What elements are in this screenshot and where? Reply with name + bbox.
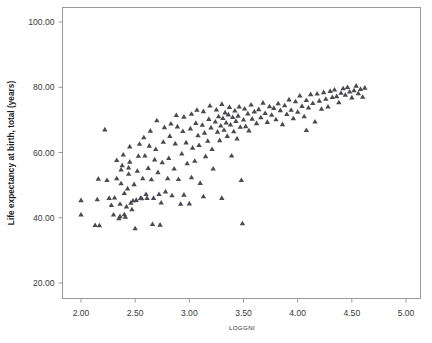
data-point-marker: [192, 158, 197, 163]
data-point-marker: [126, 171, 131, 176]
data-point-marker: [149, 177, 154, 182]
data-point-marker: [195, 133, 200, 138]
data-point-marker: [327, 88, 332, 93]
data-point-marker: [242, 106, 247, 111]
data-point-marker: [201, 109, 206, 114]
data-point-marker: [102, 127, 107, 132]
data-point-marker: [269, 112, 274, 117]
data-point-marker: [162, 125, 167, 130]
data-point-marker: [132, 226, 137, 231]
data-point-marker: [95, 197, 100, 202]
data-point-marker: [141, 135, 146, 140]
data-point-marker: [231, 129, 236, 134]
data-point-marker: [278, 108, 283, 113]
y-axis-title: Life expectancy at birth, total (years): [6, 81, 16, 226]
data-point-marker: [219, 101, 224, 106]
data-point-marker: [205, 138, 210, 143]
data-point-marker: [142, 153, 147, 158]
data-point-marker: [353, 83, 358, 88]
data-point-marker: [248, 102, 253, 107]
data-point-marker: [347, 89, 352, 94]
data-point-marker: [297, 93, 302, 98]
data-point-marker: [236, 104, 241, 109]
y-axis-ticks: 20.0040.0060.0080.00100.00: [28, 17, 62, 288]
data-point-marker: [243, 124, 248, 129]
data-point-marker: [291, 116, 296, 121]
data-point-marker: [256, 107, 261, 112]
data-point-marker: [245, 111, 250, 116]
data-point-marker: [293, 99, 298, 104]
data-point-marker: [201, 194, 206, 199]
x-axis-title: LOGGNI: [229, 324, 255, 331]
x-tick-label: 4.00: [289, 308, 306, 318]
data-point-marker: [330, 95, 335, 100]
data-point-marker: [217, 138, 222, 143]
data-point-marker: [308, 92, 313, 97]
data-point-marker: [222, 110, 227, 115]
data-point-marker: [208, 125, 213, 130]
data-point-marker: [301, 114, 306, 119]
data-point-marker: [202, 130, 207, 135]
y-tick-label: 40.00: [33, 213, 55, 223]
data-point-marker: [135, 168, 140, 173]
data-point-marker: [167, 133, 172, 138]
data-point-marker: [180, 128, 185, 133]
data-point-marker: [288, 107, 293, 112]
data-point-marker: [183, 140, 188, 145]
data-point-marker: [319, 106, 324, 111]
data-point-marker: [340, 86, 345, 91]
data-point-marker: [111, 212, 116, 217]
data-point-marker: [173, 141, 178, 146]
data-point-marker: [299, 103, 304, 108]
data-point-marker: [165, 176, 170, 181]
data-point-marker: [325, 104, 330, 109]
data-point-marker: [306, 105, 311, 110]
data-point-marker: [174, 112, 179, 117]
x-tick-label: 3.00: [181, 308, 198, 318]
data-point-marker: [280, 122, 285, 127]
data-point-marker: [235, 113, 240, 118]
data-point-marker: [117, 201, 122, 206]
data-point-marker: [262, 110, 267, 115]
data-point-marker: [147, 143, 152, 148]
data-point-marker: [156, 191, 161, 196]
y-tick-label: 20.00: [33, 278, 55, 288]
data-point-marker: [175, 124, 180, 129]
data-point-marker: [358, 86, 363, 91]
data-point-marker: [104, 177, 109, 182]
data-point-marker: [203, 154, 208, 159]
data-point-marker: [127, 159, 132, 164]
data-point-marker: [194, 107, 199, 112]
data-point-marker: [184, 161, 189, 166]
plot-frame: [63, 8, 421, 299]
y-tick-label: 60.00: [33, 148, 55, 158]
data-point-marker: [179, 151, 184, 156]
data-point-marker: [189, 175, 194, 180]
data-point-marker: [233, 118, 238, 123]
data-point-marker: [136, 153, 141, 158]
y-tick-label: 80.00: [33, 82, 55, 92]
data-point-marker: [122, 212, 127, 217]
data-point-marker: [148, 128, 153, 133]
data-point-marker: [169, 193, 174, 198]
data-point-marker: [221, 127, 226, 132]
x-tick-label: 3.50: [235, 308, 252, 318]
data-point-marker: [216, 114, 221, 119]
data-point-marker: [362, 85, 367, 90]
data-point-marker: [258, 115, 263, 120]
data-point-marker: [127, 144, 132, 149]
data-point-marker: [214, 107, 219, 112]
x-tick-label: 5.00: [398, 308, 415, 318]
data-point-marker: [336, 100, 341, 105]
data-point-marker: [200, 122, 205, 127]
data-point-marker: [119, 163, 124, 168]
data-point-marker: [284, 111, 289, 116]
data-point-marker: [282, 103, 287, 108]
data-point-marker: [189, 111, 194, 116]
data-point-marker: [190, 145, 195, 150]
data-point-marker: [267, 104, 272, 109]
data-point-marker: [181, 192, 186, 197]
data-point-marker: [106, 195, 111, 200]
data-point-marker: [234, 136, 239, 141]
data-point-marker: [215, 129, 220, 134]
